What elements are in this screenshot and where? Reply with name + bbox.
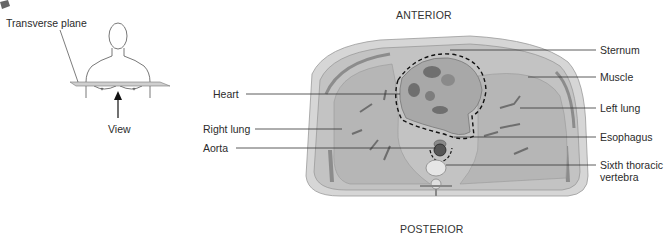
muscle-label: Muscle [600,71,633,83]
vertebra-label: vertebra [600,171,639,183]
anterior-label: ANTERIOR [396,9,452,21]
corner-mark-icon [0,0,10,9]
view-arrow-icon [114,91,122,118]
heart-label: Heart [213,88,239,100]
right-lung-label: Right lung [203,123,250,135]
anatomy-illustration [0,0,667,239]
plane-leader-line [60,30,78,82]
left-lung-label: Left lung [600,102,640,114]
sixth-thoracic-label: Sixth thoracic [600,159,663,171]
torso-figure [86,23,150,98]
esophagus-label: Esophagus [600,131,653,143]
transverse-plane-label: Transverse plane [6,17,87,29]
view-label: View [108,123,131,135]
aorta-label: Aorta [203,142,228,154]
sternum-label: Sternum [600,44,640,56]
thorax-cross-section [306,36,588,196]
transverse-plane [70,82,170,86]
posterior-label: POSTERIOR [400,223,464,235]
